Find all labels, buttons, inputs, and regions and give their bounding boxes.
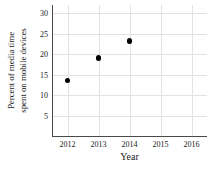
y-axis-title-text: Percent of media time spent on mobile de… [6, 28, 29, 112]
y-axis-spine [52, 5, 53, 137]
gridline-vertical [99, 5, 100, 136]
x-axis-spine [52, 136, 207, 137]
plot-area: 51015202530 20122013201420152016 [52, 5, 207, 137]
x-axis-title: Year [52, 151, 207, 162]
x-axis-tick-label: 2014 [122, 140, 138, 149]
x-axis-tick-label: 2012 [60, 140, 76, 149]
y-axis-title-line-1: Percent of media time [6, 28, 18, 112]
chart-screenshot: Percent of media time spent on mobile de… [0, 0, 212, 172]
gridline-vertical [161, 5, 162, 136]
gridline-vertical [130, 5, 131, 136]
data-point [96, 55, 102, 61]
y-axis-tick-label: 30 [40, 9, 48, 18]
data-point [127, 38, 133, 44]
y-axis-tick-label: 5 [44, 111, 48, 120]
gridline-vertical [68, 5, 69, 136]
y-axis-title: Percent of media time spent on mobile de… [0, 0, 34, 140]
gridline-vertical [192, 5, 193, 136]
y-axis-tick-label: 25 [40, 29, 48, 38]
y-axis-tick-label: 10 [40, 91, 48, 100]
y-axis-title-line-2: spent on mobile devices [17, 28, 29, 112]
x-axis-tick-label: 2016 [184, 140, 200, 149]
x-axis-tick-label: 2015 [153, 140, 169, 149]
y-axis-tick-label: 20 [40, 50, 48, 59]
y-axis-tick-label: 15 [40, 70, 48, 79]
data-point [65, 78, 71, 84]
x-axis-tick-label: 2013 [91, 140, 107, 149]
